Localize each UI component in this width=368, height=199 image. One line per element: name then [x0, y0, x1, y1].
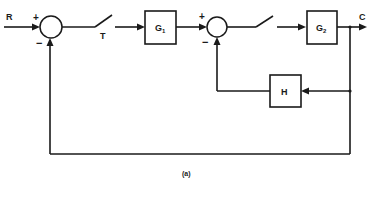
- arrow-head-icon: [301, 88, 309, 95]
- output-label: C: [359, 12, 366, 22]
- plus-sign: +: [33, 12, 39, 23]
- minus-sign: −: [202, 36, 208, 48]
- switch-label: T: [100, 31, 106, 41]
- block-diagram: R + − T G1 + − G2: [0, 0, 368, 199]
- summing-circle-icon: [207, 17, 227, 37]
- input-label: R: [6, 12, 13, 22]
- sampler-switch-t: T: [62, 15, 145, 41]
- arrow-head-icon: [298, 24, 306, 31]
- arrow-head-icon: [199, 24, 207, 31]
- minus-sign: −: [36, 37, 42, 49]
- arrow-head-icon: [359, 24, 367, 31]
- switch-blade-icon: [95, 15, 112, 27]
- inner-feedback-loop: H: [214, 27, 352, 154]
- output-c: C: [337, 12, 367, 31]
- plus-sign: +: [199, 11, 205, 22]
- arrow-head-icon: [137, 24, 145, 31]
- sampler-switch-2: [227, 16, 306, 31]
- figure-caption: (a): [182, 170, 191, 178]
- block-g2: G2: [307, 11, 337, 44]
- arrow-head-icon: [214, 37, 221, 45]
- summing-circle-icon: [40, 16, 62, 38]
- outer-feedback-loop: [47, 38, 351, 154]
- arrow-head-icon: [47, 38, 54, 46]
- arrow-head-icon: [32, 24, 40, 31]
- block-label: H: [281, 87, 288, 97]
- switch-blade-icon: [256, 16, 273, 27]
- summing-junction-1: + −: [33, 12, 62, 49]
- summing-junction-2: + −: [199, 11, 227, 48]
- block-g1: G1: [145, 11, 176, 44]
